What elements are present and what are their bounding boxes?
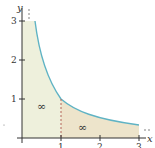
y-tick-label-3: 3: [11, 16, 17, 26]
side-dot: [3, 124, 4, 125]
x-tick-label-2: 2: [97, 142, 103, 148]
y-axis-dots: [28, 9, 29, 18]
x-tick-label-3: 3: [136, 142, 142, 148]
right-region-fill: [61, 99, 139, 138]
left-region-fill: [22, 21, 61, 138]
x-tick-label-1: 1: [58, 142, 64, 148]
x-axis-dots: [144, 129, 149, 130]
y-tick-label-2: 2: [11, 55, 17, 65]
chart: 1 2 3 1 2 3 y x ∞ ∞: [0, 0, 155, 148]
right-region-label: ∞: [78, 121, 87, 134]
x-axis-label: x: [147, 133, 153, 144]
y-axis-label: y: [16, 2, 23, 13]
y-tick-label-1: 1: [11, 94, 17, 104]
left-region-label: ∞: [37, 100, 46, 113]
